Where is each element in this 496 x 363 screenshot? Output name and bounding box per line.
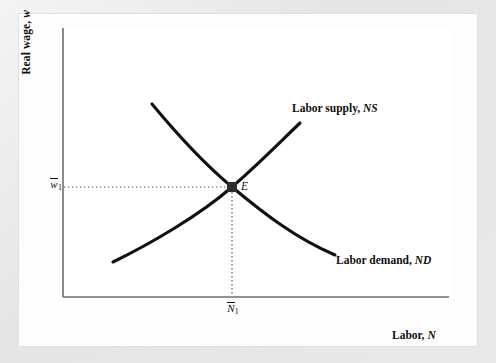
labor-supply-curve xyxy=(113,123,300,262)
equilibrium-point-label: E xyxy=(241,181,248,193)
equilibrium-labor-variable: N xyxy=(227,303,234,314)
x-axis-label: Labor, N xyxy=(392,330,436,342)
equilibrium-labor-tick-label: N1 xyxy=(222,303,244,316)
labor-demand-label-text: Labor demand, xyxy=(336,254,415,266)
equilibrium-labor-subscript: 1 xyxy=(234,307,238,316)
y-axis-label: Real wage, w xyxy=(18,10,36,140)
labor-demand-label: Labor demand, ND xyxy=(336,255,431,267)
equilibrium-wage-subscript: 1 xyxy=(58,183,62,192)
y-axis-label-text: Real wage, xyxy=(20,18,32,75)
x-axis-label-variable: N xyxy=(427,329,435,341)
equilibrium-marker xyxy=(227,182,237,192)
equilibrium-wage-tick-label: w1 xyxy=(42,179,62,192)
labor-market-diagram: Real wage, w Labor, N Labor supply, NS L… xyxy=(0,0,496,363)
x-axis-label-text: Labor, xyxy=(392,329,427,341)
labor-supply-label: Labor supply, NS xyxy=(292,103,378,115)
equilibrium-wage-variable: w xyxy=(50,179,57,190)
labor-supply-label-variable: NS xyxy=(363,102,378,114)
y-axis-label-variable: w xyxy=(20,10,32,18)
labor-demand-label-variable: ND xyxy=(415,254,432,266)
labor-supply-label-text: Labor supply, xyxy=(292,102,363,114)
